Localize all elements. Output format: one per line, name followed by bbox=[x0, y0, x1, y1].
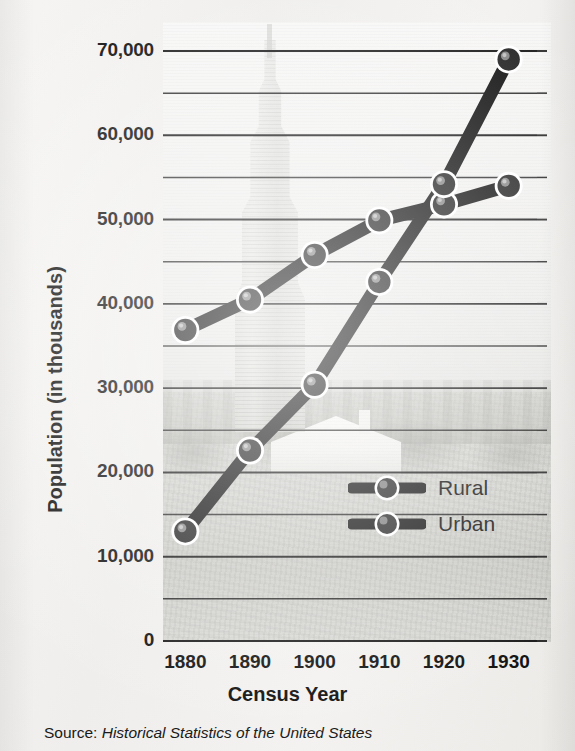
legend-marker-urban-icon bbox=[348, 509, 426, 539]
y-tick-label: 40,000 bbox=[97, 292, 154, 314]
chart-legend: Rural Urban bbox=[348, 470, 495, 542]
y-tick-label: 20,000 bbox=[97, 460, 154, 482]
data-point-urban-1930 bbox=[495, 45, 523, 73]
chart-page: 010,00020,00030,00040,00050,00060,00070,… bbox=[0, 0, 575, 751]
data-point-urban-1900 bbox=[301, 371, 329, 399]
series-line-rural bbox=[185, 186, 508, 330]
y-tick-label: 0 bbox=[144, 629, 154, 651]
chart-plot-svg bbox=[163, 22, 551, 642]
data-point-urban-1910 bbox=[365, 268, 393, 296]
legend-label-rural: Rural bbox=[438, 476, 488, 500]
legend-label-urban: Urban bbox=[438, 512, 495, 536]
legend-item-rural: Rural bbox=[348, 470, 495, 506]
y-tick-label: 30,000 bbox=[97, 376, 154, 398]
data-point-rural-1930 bbox=[495, 172, 523, 200]
y-tick-label: 10,000 bbox=[97, 545, 154, 567]
data-point-rural-1900 bbox=[301, 241, 329, 269]
source-prefix: Source: bbox=[44, 724, 97, 741]
data-point-urban-1890 bbox=[236, 437, 264, 465]
data-point-urban-1880 bbox=[171, 517, 199, 545]
source-note: Source: Historical Statistics of the Uni… bbox=[44, 724, 372, 742]
source-publication: Historical Statistics of the United Stat… bbox=[102, 724, 373, 741]
data-point-urban-1920 bbox=[430, 170, 458, 198]
y-tick-label: 70,000 bbox=[97, 39, 154, 61]
series-line-urban bbox=[185, 59, 508, 531]
data-point-rural-1880 bbox=[171, 316, 199, 344]
data-point-rural-1910 bbox=[365, 206, 393, 234]
y-tick-label: 60,000 bbox=[97, 123, 154, 145]
x-axis-title: Census Year bbox=[0, 683, 575, 706]
plot-area bbox=[163, 22, 551, 642]
y-tick-label: 50,000 bbox=[97, 208, 154, 230]
legend-item-urban: Urban bbox=[348, 506, 495, 542]
legend-marker-rural-icon bbox=[348, 473, 426, 503]
x-tick-label: 1930 bbox=[464, 651, 554, 673]
y-axis-title: Population (in thousands) bbox=[44, 180, 67, 600]
data-point-rural-1890 bbox=[236, 286, 264, 314]
